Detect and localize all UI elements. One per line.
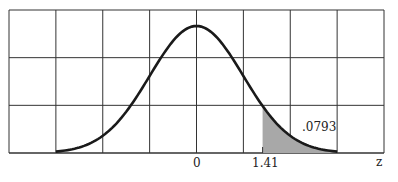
tick-label-1-41: 1.41 [252,156,279,170]
area-value-label: .0793 [302,120,336,134]
axis-label-z: z [376,155,382,169]
tick-label-zero: 0 [193,156,201,170]
normal-curve-chart [0,0,398,170]
